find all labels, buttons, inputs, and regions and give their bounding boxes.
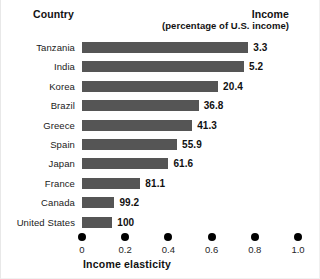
bar xyxy=(82,197,114,208)
chart-row: Greece41.3 xyxy=(1,118,320,137)
bar-category-label: Greece xyxy=(1,120,75,131)
bar-category-label: France xyxy=(1,178,75,189)
bar-category-label: Korea xyxy=(1,81,75,92)
bar-category-label: Tanzania xyxy=(1,42,75,53)
bar xyxy=(82,217,112,228)
x-axis-tick-marker xyxy=(78,233,86,241)
x-axis-tick-label: 1.0 xyxy=(278,244,318,255)
bar xyxy=(82,139,177,150)
chart-row: France81.1 xyxy=(1,176,320,195)
bar xyxy=(82,120,192,131)
bar-value-label: 81.1 xyxy=(145,178,165,189)
bar xyxy=(82,158,168,169)
x-axis-tick-marker xyxy=(251,233,259,241)
x-axis-tick-marker xyxy=(208,233,216,241)
x-axis-tick-label: 0.6 xyxy=(192,244,232,255)
chart-row: United States100 xyxy=(1,215,320,234)
bar-category-label: Spain xyxy=(1,139,75,150)
bar-category-label: Japan xyxy=(1,158,75,169)
bar-value-label: 36.8 xyxy=(204,100,224,111)
bar xyxy=(82,42,248,53)
bar xyxy=(82,61,244,72)
x-axis-tick-label: 0 xyxy=(62,244,102,255)
bar-chart-plot: Tanzania3.3India5.2Korea20.4Brazil36.8Gr… xyxy=(1,0,320,279)
x-axis-tick-label: 0.4 xyxy=(148,244,188,255)
chart-row: India5.2 xyxy=(1,59,320,78)
chart-row: Japan61.6 xyxy=(1,156,320,175)
bar-value-label: 55.9 xyxy=(182,139,202,150)
bar xyxy=(82,81,218,92)
bar-category-label: Canada xyxy=(1,197,75,208)
bar-category-label: Brazil xyxy=(1,100,75,111)
x-axis-title: Income elasticity xyxy=(83,258,171,270)
chart-row: Spain55.9 xyxy=(1,137,320,156)
chart-row: Canada99.2 xyxy=(1,195,320,214)
bar-value-label: 20.4 xyxy=(223,81,243,92)
x-axis-tick-label: 0.8 xyxy=(235,244,275,255)
bar-category-label: United States xyxy=(1,217,75,228)
bar-value-label: 41.3 xyxy=(197,120,217,131)
x-axis-tick-marker xyxy=(164,233,172,241)
chart-row: Tanzania3.3 xyxy=(1,40,320,59)
chart-row: Brazil36.8 xyxy=(1,98,320,117)
bar-category-label: India xyxy=(1,61,75,72)
x-axis-tick-label: 0.2 xyxy=(105,244,145,255)
bar-value-label: 99.2 xyxy=(119,197,139,208)
bar-value-label: 5.2 xyxy=(249,61,263,72)
bar-value-label: 61.6 xyxy=(173,158,193,169)
bar xyxy=(82,178,140,189)
bar xyxy=(82,100,199,111)
bar-value-label: 3.3 xyxy=(253,42,267,53)
chart-figure: Country Income (percentage of U.S. incom… xyxy=(0,0,320,279)
x-axis-tick-marker xyxy=(294,233,302,241)
bar-value-label: 100 xyxy=(117,217,134,228)
chart-row: Korea20.4 xyxy=(1,79,320,98)
x-axis-tick-marker xyxy=(121,233,129,241)
